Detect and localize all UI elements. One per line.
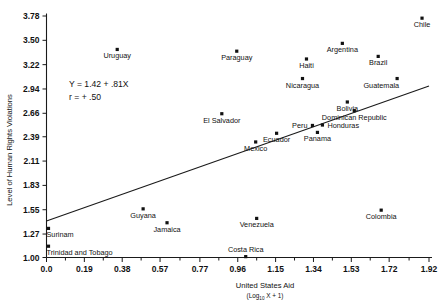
x-tick-label: 0.57 [152, 264, 169, 274]
x-axis-title: United States Aid [236, 281, 294, 290]
data-point: Honduras [321, 121, 360, 130]
x-tick-label: 0.0 [41, 264, 53, 274]
regression-equation-text: Y = 1.42 + .81X [69, 79, 129, 89]
y-tick-label: 2.11 [23, 156, 39, 166]
data-point-label: Brazil [369, 58, 388, 67]
x-tick-label: 0.38 [114, 264, 131, 274]
plot-canvas: 1.001.271.551.832.112.392.662.943.223.50… [0, 0, 445, 306]
data-point: Panama [304, 131, 332, 144]
x-tick-label: 0.77 [192, 264, 209, 274]
data-point-marker [244, 255, 247, 258]
data-points-group: ChileArgentinaBrazilUruguayParaguayHaiti… [46, 17, 430, 259]
y-tick-label: 3.22 [23, 60, 40, 70]
data-point-label: Costa Rica [228, 245, 265, 254]
regression-line [47, 86, 430, 221]
data-point: El Salvador [203, 112, 241, 125]
data-point-marker [321, 123, 324, 126]
data-point-label: Venezuela [240, 220, 275, 229]
x-tick-label: 0.19 [76, 264, 93, 274]
data-point-label: Argentina [327, 45, 359, 54]
x-tick-label: 1.92 [421, 264, 438, 274]
x-tick-label: 1.34 [305, 264, 322, 274]
x-axis-title-sub-prefix: (Log [247, 292, 260, 300]
x-axis-title-sub-tail: X + 1) [264, 292, 283, 300]
data-point-label: Peru [292, 121, 307, 130]
data-point-label: Mexico [244, 144, 267, 153]
y-tick-label: 2.94 [23, 84, 40, 94]
axes-group: 1.001.271.551.832.112.392.662.943.223.50… [23, 11, 438, 274]
y-axis-title: Level of Human Rights Violations [5, 94, 14, 206]
data-point-label: Jamaica [153, 225, 181, 234]
data-point: Surinam [46, 227, 73, 240]
y-tick-label: 2.39 [23, 132, 40, 142]
data-point: Peru [292, 121, 314, 130]
y-tick-label: 3.78 [23, 11, 40, 21]
correlation-text: r = + .50 [69, 92, 101, 102]
x-axis-title-sub: (Log10 X + 1) [247, 292, 284, 301]
annotations-group: Y = 1.42 + .81Xr = + .50 [69, 79, 129, 102]
x-tick-label: 0.96 [229, 264, 246, 274]
data-point-label: Uruguay [103, 51, 131, 60]
x-tick-label: 1.72 [381, 264, 398, 274]
data-point: Haiti [299, 57, 314, 70]
data-point-label: Chile [414, 20, 431, 29]
data-point-label: El Salvador [203, 116, 241, 125]
data-point-label: Paraguay [221, 53, 253, 62]
data-point-marker [311, 124, 314, 127]
data-point: Trinidad and Tobago [46, 245, 112, 258]
data-point: Guyana [130, 207, 156, 220]
data-point: Jamaica [153, 221, 181, 234]
y-tick-label: 3.50 [23, 35, 40, 45]
data-point: Guatemala [363, 77, 400, 90]
scatter-plot-figure: 1.001.271.551.832.112.392.662.943.223.50… [0, 0, 445, 306]
data-point-label: Haiti [299, 61, 314, 70]
data-point: Ecuador [263, 132, 291, 145]
data-point: Colombia [366, 209, 398, 222]
regression-line-group [47, 86, 430, 221]
data-point: Chile [414, 17, 431, 30]
data-point-label: Panama [304, 134, 332, 143]
data-point-label: Guatemala [363, 81, 400, 90]
data-point-label: Trinidad and Tobago [46, 248, 112, 257]
data-point-label: Colombia [366, 212, 398, 221]
y-tick-label: 2.66 [23, 108, 40, 118]
data-point: Paraguay [221, 50, 253, 63]
data-point-label: Ecuador [263, 135, 291, 144]
y-tick-label: 1.55 [23, 205, 40, 215]
data-point: Venezuela [240, 217, 275, 230]
data-point: Uruguay [103, 48, 131, 61]
data-point-label: Nicaragua [286, 81, 320, 90]
data-point: Argentina [327, 42, 359, 55]
data-point: Brazil [369, 55, 388, 68]
y-tick-label: 1.00 [23, 253, 40, 263]
data-point-label: Honduras [327, 121, 359, 130]
data-point-label: Guyana [130, 211, 156, 220]
data-point-label: Surinam [46, 230, 73, 239]
y-tick-label: 1.83 [23, 180, 40, 190]
data-point: Nicaragua [286, 77, 320, 90]
x-tick-label: 1.15 [267, 264, 284, 274]
y-tick-label: 1.27 [23, 229, 40, 239]
x-tick-label: 1.53 [343, 264, 360, 274]
data-point: Costa Rica [228, 245, 265, 259]
